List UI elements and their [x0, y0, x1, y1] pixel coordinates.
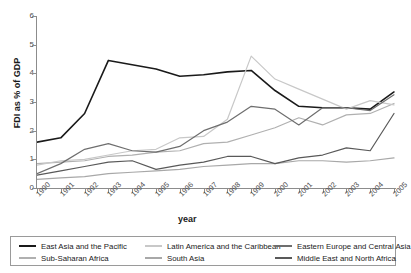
legend-color-swatch	[19, 257, 36, 259]
series-line	[37, 56, 394, 165]
legend-item[interactable]: East Asia and the Pacific	[19, 240, 127, 252]
legend-label: Latin America and the Caribbean	[167, 242, 281, 251]
legend-label: Middle East and North Africa	[297, 254, 396, 263]
legend-item[interactable]: Middle East and North Africa	[275, 252, 411, 264]
legend-item[interactable]: South Asia	[145, 252, 281, 264]
legend-item[interactable]: Sub-Saharan Africa	[19, 252, 127, 264]
legend-item[interactable]: Eastern Europe and Central Asia	[275, 240, 411, 252]
y-axis-tick-labels: 0123456	[16, 0, 34, 230]
plot-area	[37, 16, 395, 188]
legend-color-swatch	[19, 245, 36, 247]
series-lines	[37, 16, 395, 188]
legend-column-2: Eastern Europe and Central AsiaMiddle Ea…	[275, 240, 411, 264]
legend-color-swatch	[145, 257, 162, 259]
legend-column-0: East Asia and the PacificSub-Saharan Afr…	[19, 240, 127, 264]
series-line	[37, 60, 394, 142]
legend-color-swatch	[275, 245, 292, 247]
x-axis-title: year	[178, 214, 197, 224]
legend-label: Eastern Europe and Central Asia	[297, 242, 411, 251]
legend-color-swatch	[145, 245, 162, 247]
legend-column-1: Latin America and the CaribbeanSouth Asi…	[145, 240, 281, 264]
series-line	[37, 103, 394, 163]
series-line	[37, 158, 394, 180]
chart-legend: East Asia and the PacificSub-Saharan Afr…	[10, 236, 396, 266]
legend-label: South Asia	[167, 254, 204, 263]
legend-item[interactable]: Latin America and the Caribbean	[145, 240, 281, 252]
legend-label: Sub-Saharan Africa	[41, 254, 109, 263]
legend-label: East Asia and the Pacific	[41, 242, 127, 251]
line-chart: FDI as % of GDP year 0123456 19901991199…	[0, 0, 406, 230]
legend-color-swatch	[275, 257, 292, 259]
